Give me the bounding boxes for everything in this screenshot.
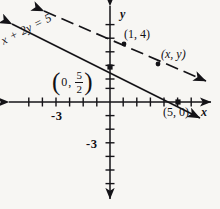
point-5-0-label: (5, 0) bbox=[163, 106, 189, 118]
fraction-numerator: 5 bbox=[76, 70, 84, 82]
x-axis-label: x bbox=[201, 106, 207, 118]
y-axis-label: y bbox=[120, 8, 125, 20]
fraction-comma: , bbox=[68, 75, 71, 90]
x-axis-tick-label-minus3: -3 bbox=[51, 110, 62, 123]
point-y-intercept-marker bbox=[107, 64, 112, 69]
point-xy-label: (x, y) bbox=[161, 48, 186, 60]
open-paren: ( bbox=[52, 71, 60, 92]
fraction-zero: 0 bbox=[61, 75, 67, 90]
point-xy-marker bbox=[156, 62, 161, 67]
fraction-five-halves: 5 2 bbox=[75, 70, 83, 95]
point-1-4-marker bbox=[122, 42, 127, 47]
point-x-intercept-marker bbox=[175, 99, 180, 104]
point-y-intercept-label: ( 0 , 5 2 ) bbox=[52, 70, 93, 95]
point-1-4-label: (1, 4) bbox=[124, 28, 150, 40]
fraction-denominator: 2 bbox=[76, 84, 84, 96]
y-axis-tick-label-minus3: -3 bbox=[86, 138, 97, 151]
close-paren: ) bbox=[84, 71, 92, 92]
